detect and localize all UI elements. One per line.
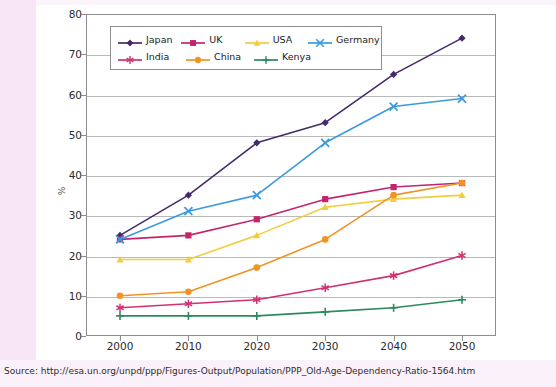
data-point-marker-circle (117, 292, 124, 299)
legend-label: Japan (146, 34, 173, 45)
data-point-marker-plus (184, 312, 192, 320)
x-tick-label: 2040 (364, 340, 424, 352)
data-point-marker-square (190, 40, 196, 46)
series-line (120, 99, 462, 240)
legend-label: UK (209, 34, 222, 45)
x-tick-label: 2000 (90, 340, 150, 352)
y-tick-label: 10 (46, 290, 82, 302)
x-tick-label: 2020 (227, 340, 287, 352)
x-tick-label: 2030 (295, 340, 355, 352)
data-point-marker-square (391, 184, 397, 190)
y-tick-label: 20 (46, 250, 82, 262)
series-line (120, 256, 462, 308)
data-point-marker-plus (253, 312, 261, 320)
x-tick-label: 2010 (158, 340, 218, 352)
data-point-marker-circle (185, 288, 192, 295)
x-tick-mark (120, 336, 121, 341)
data-point-marker-diamond (458, 35, 465, 42)
data-point-marker-circle (459, 180, 466, 187)
y-tick-label: 30 (46, 209, 82, 221)
data-point-marker-square (185, 232, 191, 238)
x-tick-mark (325, 336, 326, 341)
data-point-marker-plus (458, 296, 466, 304)
data-point-marker-square (254, 216, 260, 222)
x-tick-label: 2050 (432, 340, 492, 352)
legend-item-germany[interactable]: Germany (307, 31, 375, 48)
legend-item-china[interactable]: China (185, 48, 253, 65)
legend-label: China (214, 51, 241, 62)
legend-item-uk[interactable]: UK (180, 31, 243, 48)
x-tick-mark (394, 336, 395, 341)
legend-label: Germany (336, 34, 380, 45)
y-tick-label: 50 (46, 129, 82, 141)
data-point-marker-circle (195, 56, 201, 62)
data-point-marker-plus (321, 308, 329, 316)
data-point-marker-circle (322, 236, 329, 243)
series-uk (117, 180, 465, 243)
y-tick-label: 80 (46, 8, 82, 20)
legend-row: JapanUKUSAGermany (117, 31, 375, 48)
legend-item-usa[interactable]: USA (244, 31, 307, 48)
x-tick-mark (188, 336, 189, 341)
figure-page: % 01020304050607080 20002010202020302040… (0, 0, 556, 387)
series-usa (116, 192, 465, 263)
legend-item-india[interactable]: India (117, 48, 185, 65)
legend-swatch-diamond-icon (117, 34, 143, 46)
line-chart: % 01020304050607080 20002010202020302040… (0, 0, 556, 360)
data-point-marker-circle (390, 192, 397, 199)
legend-item-japan[interactable]: Japan (117, 31, 180, 48)
y-tick-mark (81, 336, 86, 337)
y-tick-label: 0 (46, 330, 82, 342)
series-kenya (116, 296, 466, 320)
legend-swatch-asterisk-icon (117, 51, 143, 63)
data-point-marker-plus (262, 56, 270, 64)
x-tick-mark (257, 336, 258, 341)
legend-swatch-plus-icon (253, 51, 279, 63)
data-point-marker-square (322, 196, 328, 202)
series-line (120, 300, 462, 316)
series-line (120, 183, 462, 296)
legend-item-kenya[interactable]: Kenya (253, 48, 321, 65)
data-point-marker-plus (390, 304, 398, 312)
data-point-marker-circle (254, 264, 261, 271)
source-caption: Source: http://esa.un.org/unpd/ppp/Figur… (4, 366, 475, 376)
y-tick-label: 40 (46, 169, 82, 181)
data-point-marker-plus (116, 312, 124, 320)
y-axis-label: % (57, 187, 67, 196)
y-tick-label: 70 (46, 48, 82, 60)
legend-label: USA (273, 34, 293, 45)
legend-label: Kenya (282, 51, 311, 62)
legend-label: India (146, 51, 169, 62)
legend-swatch-square-icon (180, 34, 206, 46)
legend: JapanUKUSAGermanyIndiaChinaKenya (110, 26, 382, 70)
legend-swatch-circle-icon (185, 51, 211, 63)
legend-swatch-x-icon (307, 34, 333, 46)
series-india (116, 251, 465, 312)
data-point-marker-x (321, 139, 329, 147)
y-tick-label: 60 (46, 89, 82, 101)
legend-swatch-triangle-icon (244, 34, 270, 46)
data-point-marker-diamond (127, 39, 134, 46)
x-tick-mark (462, 336, 463, 341)
legend-row: IndiaChinaKenya (117, 48, 375, 65)
